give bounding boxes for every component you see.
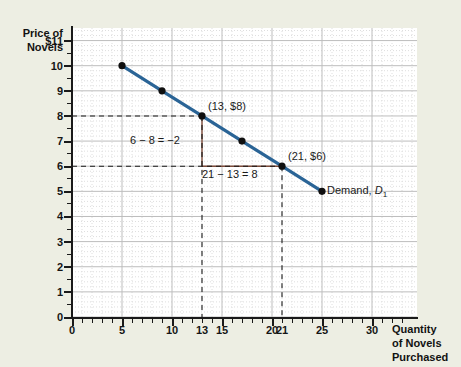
annotation-demand-label: Demand, D1 [327,184,387,199]
x-axis-minor-tick [112,319,113,323]
y-axis-tick-label: 0 [0,311,63,323]
x-axis-minor-tick [182,319,183,323]
y-axis-major-tick [64,241,71,243]
demand-label-text: Demand, [327,184,375,196]
annotation-rise: 6 − 8 = −2 [130,134,180,146]
x-axis-minor-tick [252,319,253,323]
demand-label-subscript: 1 [383,191,387,200]
y-axis-tick-label: 6 [0,160,63,172]
y-axis-tick-label: 2 [0,261,63,273]
x-axis-minor-tick [162,319,163,323]
y-axis-major-tick [64,65,71,67]
y-axis-tick-label: 8 [0,110,63,122]
x-axis-tick-label: 30 [366,324,378,336]
x-axis-minor-tick [142,319,143,323]
x-axis-tick-label: 5 [119,324,125,336]
y-axis-minor-tick [67,304,71,305]
y-axis-major-tick [64,141,71,143]
x-axis-minor-tick [192,319,193,323]
annotation-point-b: (21, $6) [288,150,326,162]
y-axis-minor-tick [67,178,71,179]
y-axis-major-tick [64,115,71,117]
x-axis-minor-tick [282,319,283,323]
x-axis-tick-label: 10 [166,324,178,336]
y-axis-major-tick [64,317,71,319]
y-axis-major-tick [64,90,71,92]
x-axis-minor-tick [312,319,313,323]
y-axis-minor-tick [67,254,71,255]
x-axis-tick-label: 25 [316,324,328,336]
x-axis-tick-label: 0 [69,324,75,336]
y-axis-major-tick [64,166,71,168]
annotation-point-a: (13, $8) [208,100,246,112]
y-axis-tick-label: 5 [0,185,63,197]
y-axis-tick-label: 9 [0,85,63,97]
x-axis-minor-tick [132,319,133,323]
y-axis-major-tick [64,216,71,218]
y-axis-major-tick [64,291,71,293]
x-axis-minor-tick [212,319,213,323]
x-axis-minor-tick [152,319,153,323]
x-axis-minor-tick [382,319,383,323]
y-axis-minor-tick [67,203,71,204]
x-axis-title: Quantity of Novels Purchased [392,322,461,364]
x-axis-minor-tick [332,319,333,323]
x-axis-minor-tick [82,319,83,323]
x-axis-minor-tick [232,319,233,323]
x-axis-minor-tick [292,319,293,323]
y-axis-title-line2: Novels [0,40,63,54]
demand-label-symbol: D [375,184,383,196]
y-axis-title-line1: Price of [0,26,63,40]
x-axis-minor-tick [92,319,93,323]
x-axis-minor-tick [202,319,203,323]
y-axis-minor-tick [67,103,71,104]
annotation-run: 21 − 13 = 8 [202,168,258,180]
x-axis-tick-label: 21 [276,324,288,336]
x-axis-title-line2: of Novels [392,336,461,350]
y-axis-line [71,26,73,319]
x-axis-title-line3: Purchased [392,350,461,364]
y-axis-tick-label: 1 [0,286,63,298]
x-axis-minor-tick [342,319,343,323]
x-axis-minor-tick [362,319,363,323]
y-axis-minor-tick [67,53,71,54]
y-axis-major-tick [64,266,71,268]
x-axis-tick-label: 15 [216,324,228,336]
y-axis-title: Price of Novels [0,26,63,54]
y-axis-minor-tick [67,279,71,280]
y-axis-minor-tick [67,128,71,129]
y-axis-tick-label: 10 [0,60,63,72]
x-axis-title-line1: Quantity [392,322,461,336]
y-axis-tick-label: 7 [0,135,63,147]
x-axis-minor-tick [352,319,353,323]
x-axis-minor-tick [102,319,103,323]
y-axis-minor-tick [67,153,71,154]
y-axis-minor-tick [67,78,71,79]
y-axis-major-tick [64,40,71,42]
x-axis-minor-tick [242,319,243,323]
y-axis-tick-label: 3 [0,236,63,248]
x-axis-tick-label: 13 [196,324,208,336]
demand-curve-figure: 012345678910$110510131520212530 Price of… [0,0,461,367]
y-axis-tick-label: 4 [0,210,63,222]
y-axis-major-tick [64,191,71,193]
x-axis-minor-tick [262,319,263,323]
x-axis-minor-tick [302,319,303,323]
y-axis-minor-tick [67,229,71,230]
